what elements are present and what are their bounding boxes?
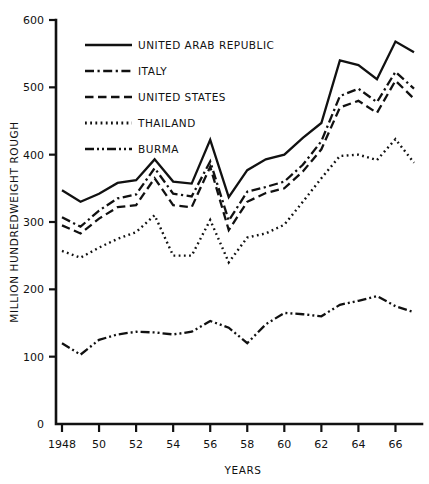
y-axis-ticks: 0100200300400500600: [23, 14, 56, 431]
x-axis-tick-label: 50: [92, 438, 106, 451]
axis-lines: [56, 20, 422, 424]
legend-label-italy: ITALY: [138, 65, 167, 77]
chart-figure: 0100200300400500600 19485052545658606264…: [0, 0, 429, 484]
y-axis-tick-label: 400: [23, 149, 44, 162]
legend-label-united-arab-republic: UNITED ARAB REPUBLIC: [138, 39, 274, 51]
x-axis-tick-label: 1948: [48, 438, 76, 451]
x-axis-tick-label: 66: [388, 438, 402, 451]
x-axis-ticks: 1948505254565860626466: [48, 424, 402, 451]
x-axis-tick-label: 54: [166, 438, 180, 451]
x-axis-tick-label: 52: [129, 438, 143, 451]
x-axis-title: YEARS: [223, 464, 261, 476]
line-chart-svg: 0100200300400500600 19485052545658606264…: [0, 0, 429, 484]
series-line-thailand: [62, 139, 414, 262]
chart-legend: UNITED ARAB REPUBLICITALYUNITED STATESTH…: [85, 39, 274, 155]
data-series-group: [62, 42, 414, 355]
y-axis-tick-label: 600: [23, 14, 44, 27]
x-axis-tick-label: 58: [240, 438, 254, 451]
x-axis-tick-label: 60: [277, 438, 291, 451]
y-axis-tick-label: 500: [23, 81, 44, 94]
legend-label-thailand: THAILAND: [137, 117, 196, 129]
series-line-united-arab-republic: [62, 42, 414, 202]
y-axis-tick-label: 300: [23, 216, 44, 229]
y-axis-title: MILLION HUNDREDWEIGHT ROUGH: [8, 121, 20, 322]
series-line-united-states: [62, 81, 414, 234]
y-axis-tick-label: 200: [23, 283, 44, 296]
legend-label-united-states: UNITED STATES: [138, 91, 226, 103]
series-line-burma: [62, 296, 414, 355]
y-axis-tick-label: 0: [37, 418, 44, 431]
x-axis-tick-label: 62: [314, 438, 328, 451]
legend-label-burma: BURMA: [138, 143, 179, 155]
x-axis-tick-label: 56: [203, 438, 217, 451]
y-axis-tick-label: 100: [23, 351, 44, 364]
x-axis-tick-label: 64: [351, 438, 365, 451]
